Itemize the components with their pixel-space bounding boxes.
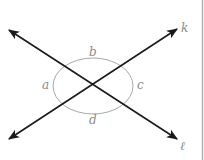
angle-d-label: d xyxy=(89,113,97,127)
line-l-label: ℓ xyxy=(180,139,185,153)
angle-b-label: b xyxy=(89,45,97,59)
angle-c-label: c xyxy=(137,78,144,92)
intersecting-lines-diagram: k ℓ a b c d xyxy=(0,0,204,160)
line-k-label: k xyxy=(181,21,188,35)
angle-a-label: a xyxy=(42,78,49,92)
